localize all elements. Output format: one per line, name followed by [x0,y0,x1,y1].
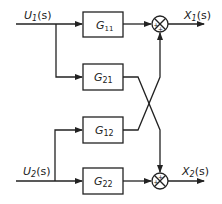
input-u1-label: U1(s) [24,9,51,23]
sum2-sign-left: + [154,178,159,185]
block-diagram: U1(s) U2(s) X1(s) X2(s) G11 G21 G12 G22 … [0,0,222,204]
block-g12-label: G12 [95,124,114,138]
sum2-sign-top: + [158,173,163,180]
block-g21-label: G21 [94,71,113,85]
u2-branch-line [55,130,82,181]
output-x2-label: X2(s) [181,165,209,179]
output-x1-label: X1(s) [183,9,211,23]
sum1-sign-bottom: + [158,25,163,32]
input-u2-label: U2(s) [23,165,50,179]
block-g11-label: G11 [96,19,113,33]
block-g22-label: G22 [94,175,113,189]
u1-branch-line [56,24,82,77]
